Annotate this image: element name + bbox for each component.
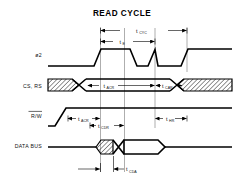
signal-label-cs-rs: CS, RS [23,83,42,89]
figure-background [0,0,245,184]
cs-rs-invalid-right [177,79,232,91]
timing-diagram-figure: READ CYCLE ø2 CS, RS R/W DATA BUS t CYC … [0,0,245,184]
signal-label-r-w: R/W [31,113,42,119]
signal-label-data-bus: DATA BUS [15,143,43,149]
label-t-acr-sub: ACR [107,86,115,90]
label-t-cda-sub: CDA [129,170,137,174]
figure-title: READ CYCLE [93,9,151,18]
label-t-hr-sub: HR [169,119,175,123]
signal-label-phi2: ø2 [35,52,42,58]
label-t-cdr-sub: CDR [101,126,109,130]
label-t-cyc-sub: CYC [139,31,147,35]
data-bus-valid-window [124,140,165,154]
label-t-car-sub: CAR [165,86,173,90]
label-t-acr2-sub: ACR [81,119,89,123]
